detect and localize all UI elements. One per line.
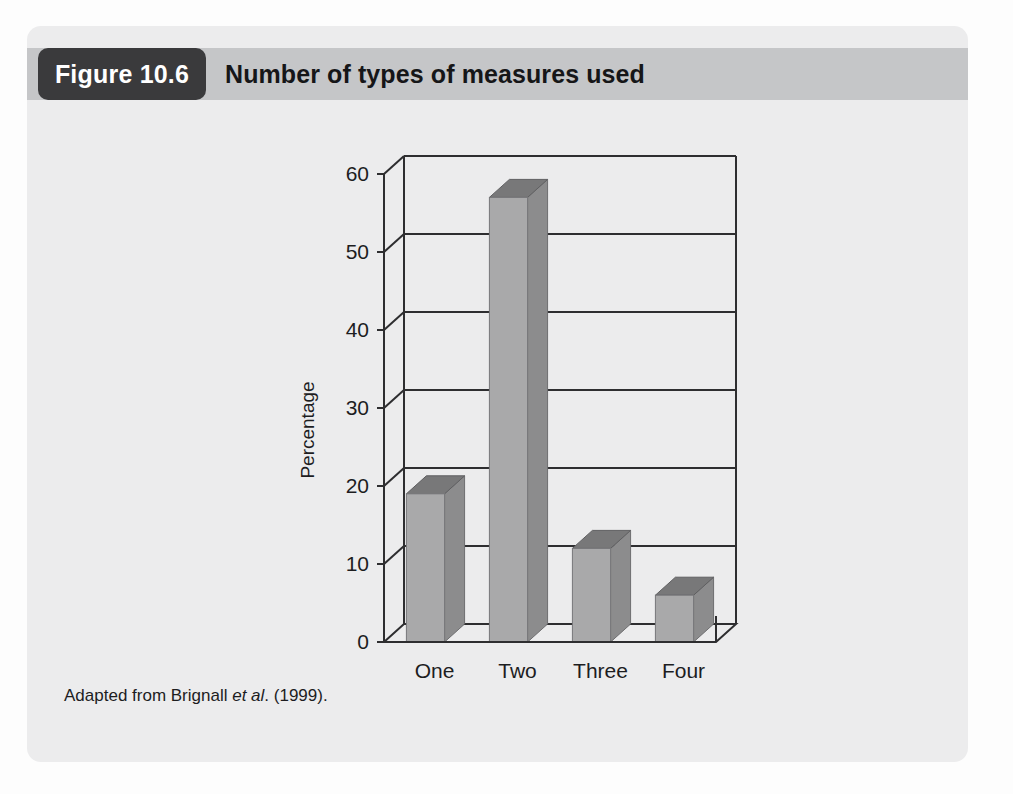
figure-card: Figure 10.6 Number of types of measures … [27,26,968,762]
y-tick-label: 50 [346,240,369,263]
x-axis-tick-labels: OneTwoThreeFour [415,659,705,682]
y-tick-label: 30 [346,396,369,419]
bar-three [572,530,630,642]
x-tick-label: Four [662,659,705,682]
bar-front-face [572,548,610,642]
bar-front-face [489,197,527,642]
bar-side-face [611,530,631,642]
bar-side-face [528,179,548,642]
bar-series [406,179,713,642]
x-tick-label: Three [573,659,628,682]
x-tick-label: One [415,659,455,682]
bar-side-face [445,476,465,642]
scanned-page: Figure 10.6 Number of types of measures … [0,0,1013,794]
bar-chart-svg: Percentage 0102030405060 OneTwoThreeFour [27,100,968,686]
figure-title: Number of types of measures used [225,48,645,100]
y-axis-tick-labels: 0102030405060 [346,162,369,653]
bar-four [655,577,713,642]
x-tick-label: Two [498,659,537,682]
caption-suffix: . (1999). [264,686,327,705]
figure-number-badge: Figure 10.6 [38,48,206,100]
figure-source-caption: Adapted from Brignall et al. (1999). [64,686,328,706]
y-tick-label: 40 [346,318,369,341]
y-tick-label: 0 [357,630,369,653]
bar-one [406,476,464,642]
bar-front-face [655,595,693,642]
caption-italic: et al [232,686,264,705]
y-tick-label: 20 [346,474,369,497]
y-axis-title: Percentage [297,381,318,478]
figure-number-label: Figure 10.6 [55,60,189,89]
chart-plot-area: Percentage 0102030405060 OneTwoThreeFour [27,100,968,686]
y-tick-label: 10 [346,552,369,575]
bar-front-face [406,494,444,642]
caption-prefix: Adapted from Brignall [64,686,232,705]
y-tick-label: 60 [346,162,369,185]
bar-two [489,179,547,642]
